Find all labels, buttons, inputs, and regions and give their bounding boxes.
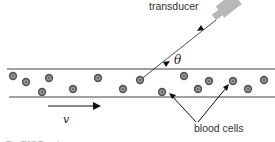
blood-cell-icon: [229, 77, 237, 85]
blood-cell-pointer-left: [172, 96, 196, 122]
doppler-diagram: θ v transducer blood cells Fig. B17 Dopp…: [0, 0, 275, 142]
blood-cell-icon: [94, 74, 102, 82]
blood-cell-icon: [194, 85, 202, 93]
blood-cell-icon: [119, 85, 127, 93]
blood-cell-icon: [45, 74, 53, 82]
blood-cell-icon: [9, 72, 17, 80]
blood-cell-icon: [180, 72, 188, 80]
transducer-icon: [209, 0, 241, 23]
blood-cell-icon: [136, 76, 144, 84]
ultrasound-beam-line: [140, 20, 216, 80]
beam-arrow-down-icon: [163, 61, 170, 67]
blood-cell-icon: [69, 85, 77, 93]
beam-arrow-up-icon: [197, 25, 204, 31]
figure-caption: Fig. B17 Doppler scan: [6, 139, 85, 142]
velocity-arrowhead-icon: [93, 102, 101, 110]
blood-cell-icon: [158, 88, 166, 96]
blood-cell-icon: [38, 88, 46, 96]
angle-theta-label: θ: [174, 53, 182, 67]
blood-cells-label: blood cells: [194, 122, 244, 134]
blood-cell-icon: [205, 77, 213, 85]
blood-cell-icon: [244, 85, 252, 93]
blood-cell-icon: [260, 76, 268, 84]
velocity-label: v: [63, 113, 70, 126]
transducer-label: transducer: [149, 0, 199, 12]
blood-cells-group: [9, 72, 268, 96]
pointer-left-arrowhead-icon: [169, 93, 176, 99]
blood-cell-pointer-right: [198, 88, 226, 122]
blood-cell-icon: [22, 78, 30, 86]
